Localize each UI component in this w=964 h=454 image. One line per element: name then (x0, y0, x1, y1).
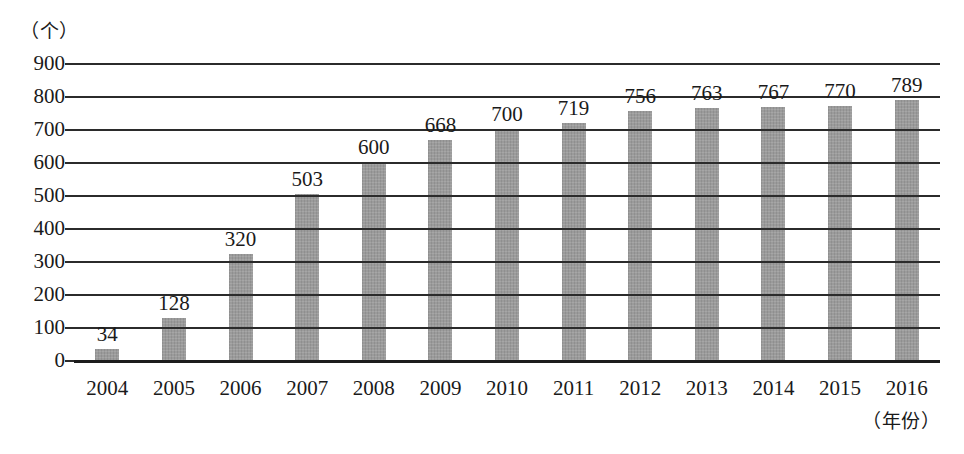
bar (295, 194, 319, 360)
x-axis-tick-label: 2011 (539, 378, 609, 399)
y-axis-tick (65, 96, 74, 98)
x-axis-tick-label: 2005 (139, 378, 209, 399)
bar (95, 349, 119, 360)
bar-value-label: 128 (139, 293, 209, 314)
gridline (74, 228, 940, 230)
x-axis-tick-label: 2013 (672, 378, 742, 399)
bar-value-label: 770 (805, 81, 875, 102)
y-axis-tick (65, 129, 74, 131)
bar (229, 254, 253, 360)
bar-value-label: 756 (605, 86, 675, 107)
bar (695, 108, 719, 360)
bar (162, 318, 186, 360)
x-axis-tick-label: 2008 (339, 378, 409, 399)
bar-value-label: 668 (405, 115, 475, 136)
y-axis-tick-label: 900 (34, 53, 66, 74)
gridline (74, 327, 940, 329)
gridline (74, 360, 940, 363)
x-axis-tick-label: 2007 (272, 378, 342, 399)
y-axis-tick-label: 400 (34, 218, 66, 239)
x-axis-unit-label: （年份） (862, 412, 940, 431)
x-axis-tick-label: 2006 (206, 378, 276, 399)
y-axis-tick (65, 228, 74, 230)
bar-value-label: 719 (539, 98, 609, 119)
y-axis-tick-label: 0 (55, 350, 66, 371)
bar-value-label: 34 (72, 324, 142, 345)
bar (562, 123, 586, 360)
y-axis-tick (65, 195, 74, 197)
gridline (74, 195, 940, 197)
y-axis-tick-label: 100 (34, 317, 66, 338)
x-axis-tick-label: 2009 (405, 378, 475, 399)
bar-value-label: 700 (472, 104, 542, 125)
x-axis-tick-label: 2014 (738, 378, 808, 399)
bar-value-label: 789 (872, 75, 942, 96)
x-axis-tick-label: 2004 (72, 378, 142, 399)
gridline (74, 162, 940, 164)
y-axis-tick (65, 360, 74, 362)
bar (828, 106, 852, 360)
gridline (74, 129, 940, 131)
y-axis-tick-label: 700 (34, 119, 66, 140)
y-axis-tick-labels: 0100200300400500600700800900 (0, 63, 65, 360)
bar-value-label: 320 (206, 229, 276, 250)
bar-value-label: 503 (272, 169, 342, 190)
x-axis-tick-label: 2015 (805, 378, 875, 399)
y-axis-tick-label: 300 (34, 251, 66, 272)
gridline (74, 261, 940, 263)
bar-value-label: 763 (672, 83, 742, 104)
y-axis-tick (65, 63, 74, 65)
bar (628, 111, 652, 360)
y-axis-unit-label: （个） (20, 22, 79, 41)
y-axis-tick (65, 294, 74, 296)
bar-value-label: 600 (339, 137, 409, 158)
bar-value-label: 767 (738, 82, 808, 103)
y-axis-tick (65, 162, 74, 164)
y-axis-tick-label: 200 (34, 284, 66, 305)
y-axis-tick (65, 261, 74, 263)
gridline (74, 63, 940, 65)
x-axis-tick-label: 2016 (872, 378, 942, 399)
bar (761, 107, 785, 360)
y-axis-tick-label: 800 (34, 86, 66, 107)
y-axis-tick-label: 600 (34, 152, 66, 173)
x-axis-tick-label: 2010 (472, 378, 542, 399)
x-axis-tick-label: 2012 (605, 378, 675, 399)
y-axis-tick-label: 500 (34, 185, 66, 206)
bar-chart: （个） 0100200300400500600700800900 （年份） 34… (0, 0, 964, 454)
